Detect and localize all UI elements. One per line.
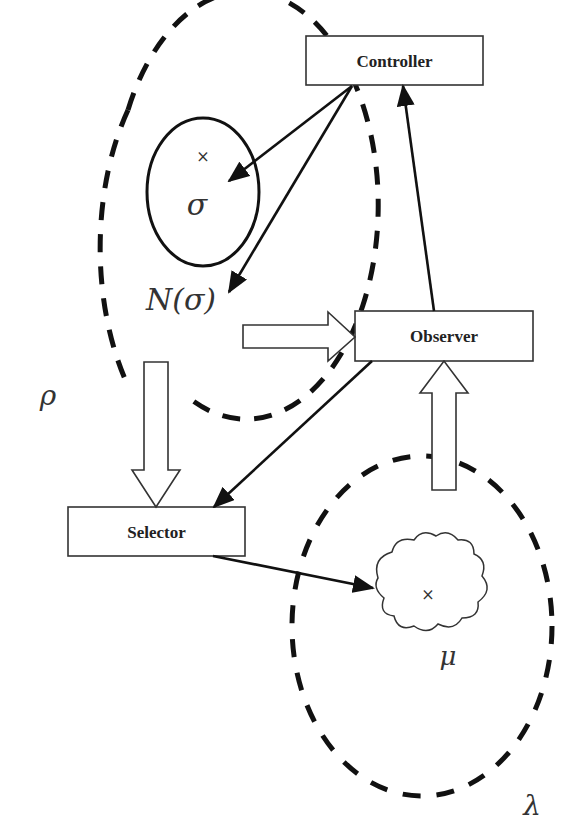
observer-node[interactable]: Observer: [355, 311, 533, 361]
rho-label: ρ: [39, 379, 57, 412]
lambda-label: λ: [522, 789, 541, 822]
selector-label: Selector: [127, 523, 186, 542]
mu-label: μ: [440, 641, 457, 671]
selector-node[interactable]: Selector: [68, 507, 245, 556]
sigma-center-marker: ×: [196, 147, 209, 166]
controller-to-neighborhood-arrow: [229, 86, 352, 292]
lambda-to-observer-block-arrow: [420, 361, 468, 490]
controller-to-sigma-arrow: [229, 86, 352, 181]
mu-cloud: [376, 533, 487, 631]
rho-to-selector-block-arrow: [132, 362, 180, 507]
rho-to-observer-block-arrow: [243, 312, 355, 361]
observer-label: Observer: [410, 327, 478, 346]
observer-to-controller-arrow: [403, 86, 434, 311]
controller-label: Controller: [356, 52, 433, 71]
controller-node[interactable]: Controller: [306, 36, 483, 85]
selector-to-mu-arrow: [213, 556, 373, 588]
mu-center-marker: ×: [421, 585, 434, 604]
sigma-label: σ: [187, 187, 209, 222]
neighborhood-label: N(σ): [145, 282, 216, 317]
diagram-canvas: Controller Observer Selector × × σ N(σ) …: [0, 0, 576, 839]
